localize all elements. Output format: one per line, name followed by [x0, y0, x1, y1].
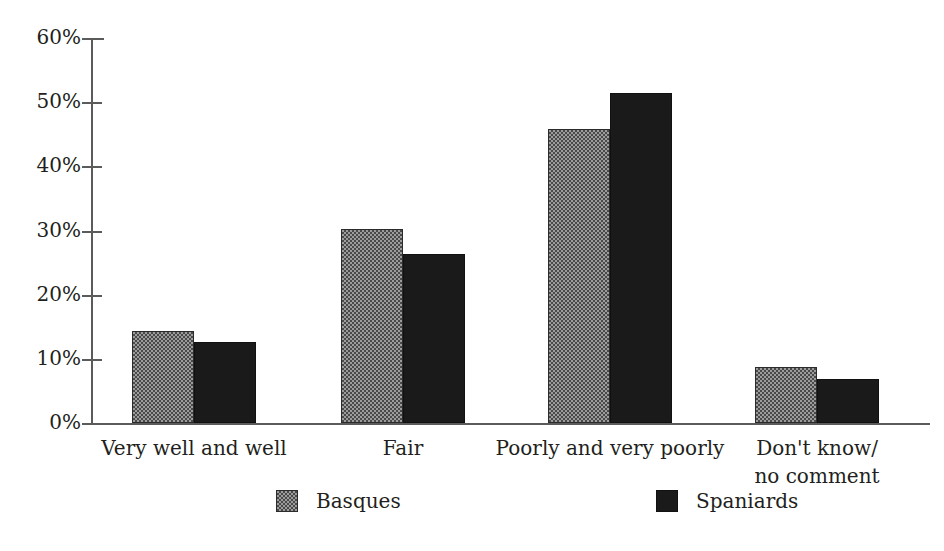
bar-basques-4	[755, 367, 817, 423]
category-label-4: Don't know/ no comment	[657, 434, 944, 490]
y-tick-mark	[82, 423, 102, 425]
y-tick-label: 20%	[37, 283, 81, 305]
chart-legend: BasquesSpaniards	[91, 489, 931, 523]
bar-spaniards-1	[194, 342, 256, 423]
bar-spaniards-3	[610, 93, 672, 423]
legend-item-basques: Basques	[276, 489, 401, 513]
y-tick-label: 50%	[37, 90, 81, 112]
y-tick-label: 60%	[37, 26, 81, 48]
y-tick-label: 40%	[37, 154, 81, 176]
y-tick-label: 0%	[49, 411, 81, 433]
bar-spaniards-4	[817, 379, 879, 423]
spaniards-swatch	[656, 490, 678, 512]
legend-label-basques: Basques	[316, 489, 401, 513]
legend-item-spaniards: Spaniards	[656, 489, 798, 513]
x-axis-line	[83, 423, 930, 425]
bar-chart: 60%50%40%30%20%10%0% Very well and wellF…	[0, 0, 944, 551]
bar-basques-3	[548, 129, 610, 423]
bar-basques-1	[132, 331, 194, 423]
legend-label-spaniards: Spaniards	[696, 489, 798, 513]
y-tick-label: 30%	[37, 219, 81, 241]
bars-layer	[91, 38, 931, 423]
bar-spaniards-2	[403, 254, 465, 423]
y-tick-label: 10%	[37, 347, 81, 369]
bar-basques-2	[341, 229, 403, 423]
basques-swatch	[276, 490, 298, 512]
